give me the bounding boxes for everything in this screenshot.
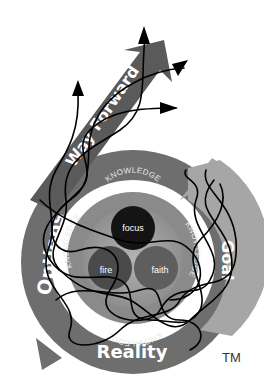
- arrowhead-right-lower: [160, 102, 178, 114]
- arrowhead-right-upper: [172, 60, 188, 76]
- focus-label: focus: [122, 223, 144, 233]
- faith-label: faith: [151, 265, 168, 275]
- trademark-mark: TM: [222, 350, 241, 365]
- arrowhead-up: [138, 26, 150, 44]
- goal-label: Goal: [218, 240, 237, 280]
- reality-label: Reality: [97, 341, 168, 362]
- grow-diagram: KNOWLEDGE KNOWLEDGE KNOWLEDGE KNOWLEDGE …: [0, 0, 264, 391]
- arrowhead-up-left: [72, 80, 84, 96]
- fire-label: fire: [100, 265, 113, 275]
